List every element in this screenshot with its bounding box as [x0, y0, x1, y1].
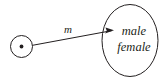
ellipse-label-female: female: [117, 40, 151, 54]
diagram-svg: m male female: [0, 0, 164, 82]
point-mass-center-dot-icon: [20, 45, 24, 49]
ellipse-label-male: male: [122, 24, 147, 38]
arrow-head-icon: [105, 28, 114, 34]
diagram-canvas: m male female: [0, 0, 164, 82]
mass-transfer-arrow-line: [33, 31, 113, 46]
arrow-label-m: m: [64, 23, 72, 35]
